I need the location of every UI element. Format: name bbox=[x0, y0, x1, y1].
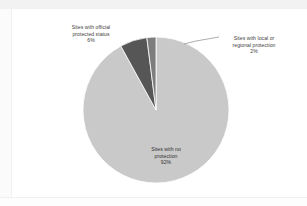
label-local-line1: Sites with local or bbox=[208, 35, 300, 42]
label-local-line2: regional protection bbox=[208, 42, 300, 49]
frame-bottom-strip bbox=[0, 197, 307, 206]
label-local-regional: Sites with local or regional protection … bbox=[208, 35, 300, 55]
label-official-line1: Sites with official bbox=[52, 24, 130, 31]
label-official-protected: Sites with official protected status 6% bbox=[52, 24, 130, 44]
label-none-line1: Sites with no bbox=[127, 146, 205, 153]
label-local-percent: 2% bbox=[208, 48, 300, 55]
screenshot-root: Sites with official protected status 6% … bbox=[0, 0, 307, 206]
label-none-percent: 92% bbox=[127, 159, 205, 166]
label-none-line2: protection bbox=[127, 153, 205, 160]
label-no-protection: Sites with no protection 92% bbox=[127, 146, 205, 166]
label-official-line2: protected status bbox=[52, 31, 130, 38]
frame-top-strip bbox=[0, 0, 307, 9]
chart-panel: Sites with official protected status 6% … bbox=[12, 10, 295, 196]
label-official-percent: 6% bbox=[52, 37, 130, 44]
frame-left-strip bbox=[0, 9, 12, 206]
